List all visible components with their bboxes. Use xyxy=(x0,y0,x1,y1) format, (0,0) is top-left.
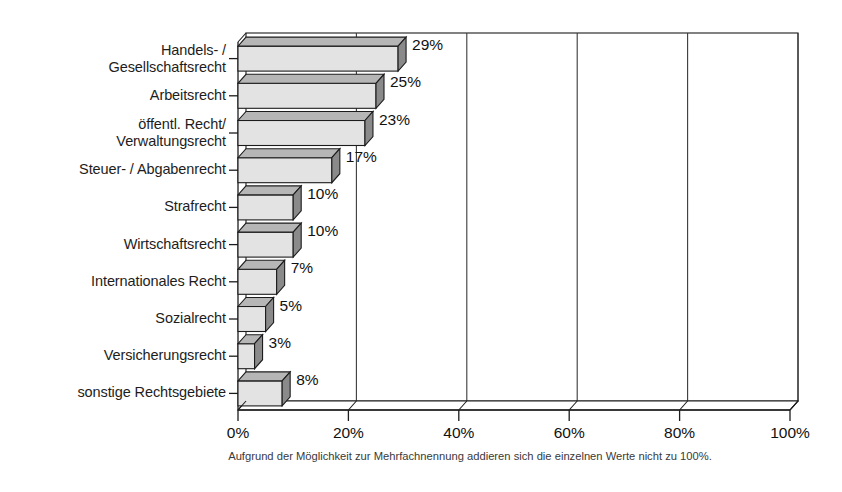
bar xyxy=(238,149,340,183)
category-label: Handels- / Gesellschaftsrecht xyxy=(0,42,226,76)
bar-chart: Handels- / GesellschaftsrechtArbeitsrech… xyxy=(0,0,842,492)
value-label: 8% xyxy=(296,371,318,388)
x-tick-label: 20% xyxy=(308,424,388,442)
bar xyxy=(238,37,406,71)
category-label: Strafrecht xyxy=(0,198,226,215)
value-label: 3% xyxy=(269,334,291,351)
bar xyxy=(238,223,301,257)
category-label: öffentl. Recht/ Verwaltungsrecht xyxy=(0,116,226,150)
x-tick-label: 40% xyxy=(419,424,499,442)
value-label: 25% xyxy=(390,73,421,90)
category-label: Steuer- / Abgabenrecht xyxy=(0,161,226,178)
bar xyxy=(238,260,285,294)
value-label: 10% xyxy=(307,222,338,239)
value-label: 10% xyxy=(307,185,338,202)
value-label: 23% xyxy=(379,111,410,128)
value-label: 5% xyxy=(280,297,302,314)
chart-footnote: Aufgrund der Möglichkeit zur Mehrfachnen… xyxy=(120,449,820,463)
x-tick-label: 0% xyxy=(198,424,278,442)
x-tick-label: 60% xyxy=(529,424,609,442)
value-label: 29% xyxy=(412,36,443,53)
x-tick-label: 80% xyxy=(640,424,720,442)
bar xyxy=(238,298,274,332)
category-label: Internationales Recht xyxy=(0,273,226,290)
value-label: 7% xyxy=(291,259,313,276)
category-label: Versicherungsrecht xyxy=(0,347,226,364)
plot-floor xyxy=(238,401,798,410)
value-label: 17% xyxy=(346,148,377,165)
category-label: Sozialrecht xyxy=(0,310,226,327)
category-label: sonstige Rechtsgebiete xyxy=(0,384,226,401)
bar xyxy=(238,372,290,406)
x-tick-label: 100% xyxy=(750,424,830,442)
category-label: Wirtschaftsrecht xyxy=(0,236,226,253)
bar xyxy=(238,186,301,220)
bar xyxy=(238,74,384,108)
bar xyxy=(238,335,263,369)
category-label: Arbeitsrecht xyxy=(0,87,226,104)
bar xyxy=(238,112,373,146)
